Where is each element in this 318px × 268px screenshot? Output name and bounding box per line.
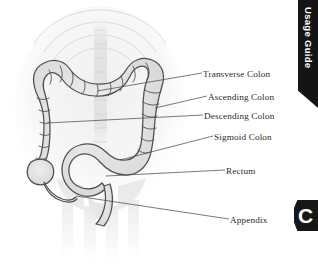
label-rectum: Rectum	[226, 167, 255, 176]
usage-guide-tab[interactable]: Usage Guide	[298, 0, 318, 108]
colon-anatomy-figure	[0, 0, 250, 268]
spine-shadow	[94, 8, 107, 158]
label-transverse-colon: Transverse Colon	[203, 70, 270, 79]
chapter-tab[interactable]: C	[294, 200, 318, 231]
usage-guide-tab-label: Usage Guide	[303, 7, 313, 68]
label-appendix: Appendix	[230, 216, 267, 225]
label-sigmoid-colon: Sigmoid Colon	[214, 133, 272, 142]
label-ascending-colon: Ascending Colon	[208, 93, 274, 102]
label-descending-colon: Descending Colon	[204, 112, 275, 121]
chapter-tab-label: C	[298, 205, 313, 226]
page-root: Transverse Colon Ascending Colon Descend…	[0, 0, 318, 268]
